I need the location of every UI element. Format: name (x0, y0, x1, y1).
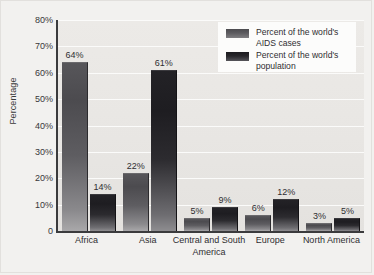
y-tick-label: 20% (18, 173, 53, 183)
y-tick-label: 60% (18, 68, 53, 78)
y-tick-label: 50% (18, 94, 53, 104)
bar-value-label: 5% (341, 206, 354, 216)
y-tick-label: 30% (18, 147, 53, 157)
bar-series-0-central-and-south-america (184, 218, 210, 231)
bar-column: 5% (184, 20, 210, 231)
legend-swatch-icon-series-1 (226, 52, 249, 61)
chart-legend: Percent of the world's AIDS cases Percen… (218, 22, 356, 72)
bar-value-label: 61% (155, 58, 173, 68)
x-tick-label: North America (295, 235, 368, 247)
y-axis-label: Percentage (8, 66, 18, 136)
bar-value-label: 14% (94, 182, 112, 192)
y-tick-label: 0 (18, 226, 53, 236)
legend-label-series-1: Percent of the world's population (256, 50, 338, 71)
legend-swatch-icon-series-0 (226, 29, 249, 38)
y-axis-tick-labels: 010%20%30%40%50%60%70%80% (18, 14, 53, 232)
y-tick-label: 40% (18, 121, 53, 131)
bar-series-0-asia (123, 173, 149, 231)
bar-series-1-europe (273, 199, 299, 231)
bar-series-1-asia (151, 70, 177, 231)
bar-value-label: 12% (277, 187, 295, 197)
y-tick-label: 70% (18, 41, 53, 51)
bar-group: 22%61% (119, 20, 180, 231)
legend-entry-aids-cases: Percent of the world's AIDS cases (226, 27, 338, 48)
legend-entry-population: Percent of the world's population (226, 50, 338, 71)
bar-value-label: 3% (313, 211, 326, 221)
bar-value-label: 5% (190, 206, 203, 216)
bar-series-0-africa (62, 62, 88, 231)
x-axis-category-labels: AfricaAsiaCentral and South AmericaEurop… (56, 235, 362, 275)
bar-chart-figure: Percentage 010%20%30%40%50%60%70%80% 64%… (0, 0, 374, 275)
bar-value-label: 64% (66, 50, 84, 60)
legend-label-series-0: Percent of the world's AIDS cases (256, 27, 338, 48)
y-tick-label: 80% (18, 15, 53, 25)
bar-value-label: 9% (218, 195, 231, 205)
y-tick-label: 10% (18, 200, 53, 210)
bar-series-1-north-america (334, 218, 360, 231)
bar-value-label: 6% (252, 203, 265, 213)
bar-column: 14% (90, 20, 116, 231)
bar-column: 61% (151, 20, 177, 231)
bar-value-label: 22% (127, 161, 145, 171)
bar-column: 22% (123, 20, 149, 231)
bar-series-1-africa (90, 194, 116, 231)
bar-group: 64%14% (58, 20, 119, 231)
bar-series-1-central-and-south-america (212, 207, 238, 231)
bar-series-0-north-america (306, 223, 332, 231)
bar-column: 64% (62, 20, 88, 231)
bar-series-0-europe (245, 215, 271, 231)
